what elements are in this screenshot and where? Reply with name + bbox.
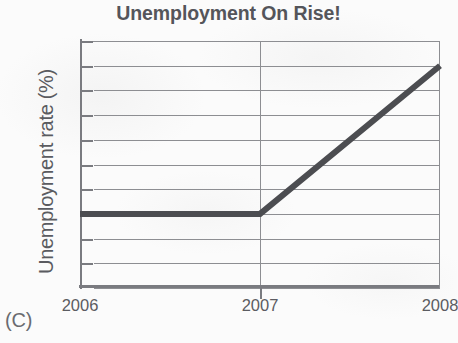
data-series-line [80, 41, 440, 288]
y-axis-title: Unemployment rate (%) [35, 37, 58, 307]
x-axis-tick-label: 2006 [62, 296, 99, 315]
chart-title: Unemployment On Rise! [0, 2, 457, 25]
gridline-horizontal [94, 288, 440, 289]
x-axis-tick-label: 2007 [242, 296, 279, 315]
x-axis-tick-label: 2008 [422, 296, 458, 315]
plot-area: 65.85.65.45.254.84.64.44.24 200620072008 [80, 41, 440, 288]
figure-caption: (C) [5, 309, 32, 332]
